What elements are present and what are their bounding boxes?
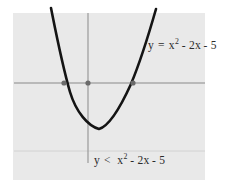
equation-term2: - 2x [182,39,201,51]
left-intercept-point [61,80,66,85]
equation-lhs: y [148,39,154,51]
inequality-term1-exponent: 2 [123,152,127,161]
quadratic-inequality-figure: y=x2- 2x- 5 y<x2- 2x- 5 [0,0,239,195]
inequality-term2: - 2x [130,154,149,166]
equation-relation: = [158,39,165,51]
parabola-curve [51,8,156,129]
equation-term1-exponent: 2 [175,37,179,46]
equation-label: y=x2- 2x- 5 [148,39,217,51]
inequality-relation: < [104,154,111,166]
right-intercept-point [130,80,135,85]
inequality-term3: - 5 [152,154,165,166]
inequality-label: y<x2- 2x- 5 [94,154,165,166]
origin-point [85,80,90,85]
inequality-lhs: y [94,154,100,166]
equation-term3: - 5 [204,39,217,51]
